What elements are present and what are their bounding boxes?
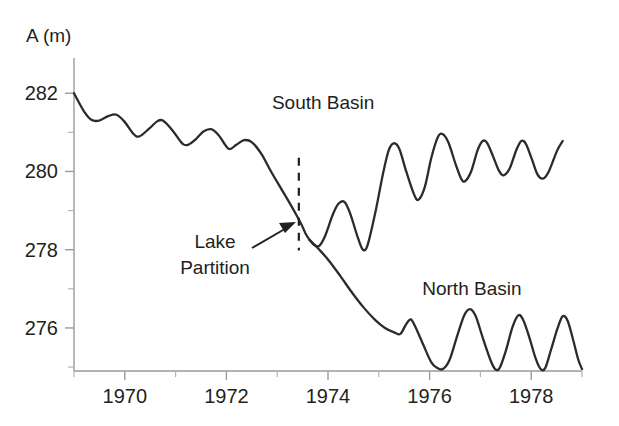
y-tick-label: 282 [25, 82, 58, 104]
y-axis-title: A (m) [26, 25, 71, 46]
lake-partition-label: Lake Partition [180, 231, 250, 278]
y-tick-label: 280 [25, 160, 58, 182]
y-axis-ticks: 276278280282 [25, 82, 74, 367]
chart-series-group [74, 93, 582, 370]
series-label-south-basin: South Basin [272, 92, 374, 113]
series-line-south-basin [310, 134, 563, 251]
x-tick-label: 1978 [509, 385, 554, 407]
x-tick-label: 1972 [204, 385, 249, 407]
x-tick-label: 1970 [103, 385, 148, 407]
y-tick-label: 278 [25, 239, 58, 261]
lake-partition-label-line1: Lake [194, 231, 235, 252]
series-line-north-basin [310, 240, 582, 370]
x-axis-ticks: 19701972197419761978 [74, 371, 582, 407]
x-tick-label: 1976 [407, 385, 452, 407]
lake-partition-label-line2: Partition [180, 257, 250, 278]
series-line-combined-lake [74, 93, 310, 240]
lake-partition-arrow [252, 222, 296, 248]
series-labels: South BasinNorth Basin [272, 92, 522, 299]
y-tick-label: 276 [25, 317, 58, 339]
series-label-north-basin: North Basin [422, 278, 521, 299]
chart-figure: A (m) 276278280282 19701972197419761978 … [0, 0, 619, 426]
x-tick-label: 1974 [306, 385, 351, 407]
